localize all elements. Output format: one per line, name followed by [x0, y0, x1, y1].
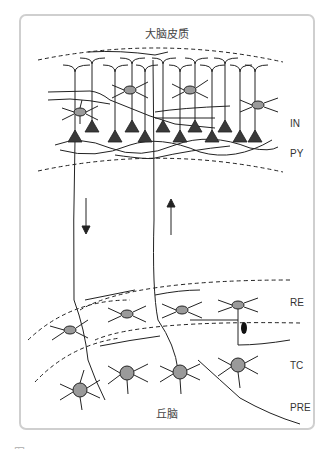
cortico-thalamic-circuit-diagram	[0, 0, 330, 449]
pyramidal-cells	[68, 120, 262, 142]
tc-neurons	[73, 358, 245, 397]
label-tc: TC	[290, 360, 303, 371]
thalamus-title: 丘脑	[156, 405, 178, 421]
synapse-marker	[241, 322, 247, 334]
label-py: PY	[290, 148, 303, 159]
caption-text: 图 ─── ─ ─ ─ ─ ─ ─ ─ ─ ─ ─ ─ ─ ─ ─ ─ ─ ─ …	[0, 444, 330, 449]
ascending-axon	[153, 60, 178, 370]
descending-axon	[74, 140, 105, 400]
label-in: IN	[290, 118, 300, 129]
figure-caption: 图 ─── ─ ─ ─ ─ ─ ─ ─ ─ ─ ─ ─ ─ ─ ─ ─ ─ ─ …	[0, 441, 330, 449]
label-re: RE	[290, 297, 304, 308]
cortex-title: 大脑皮质	[145, 25, 189, 41]
interneurons	[74, 86, 264, 116]
re-neurons	[64, 301, 244, 334]
thalamus-middle-boundary	[95, 323, 300, 340]
label-pre: PRE	[290, 402, 311, 413]
